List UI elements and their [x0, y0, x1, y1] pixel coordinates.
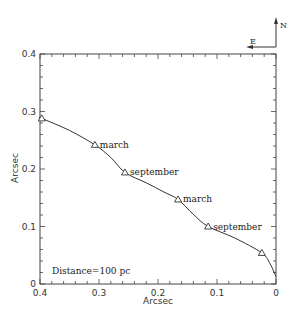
x-tick-label: 0.3: [92, 288, 106, 298]
compass: N E: [246, 17, 287, 49]
y-tick-label: 0.3: [22, 107, 36, 117]
point-label: march: [100, 140, 129, 150]
y-tick-label: 0: [30, 279, 36, 289]
x-tick-label: 0.1: [210, 288, 224, 298]
x-tick-label: 0.4: [33, 288, 48, 298]
compass-east-label: E: [250, 37, 256, 46]
annotations: Distance=100 pc: [52, 266, 130, 276]
y-tick-label: 0.4: [22, 49, 37, 59]
x-axis-label: Arcsec: [143, 296, 173, 306]
triangle-marker-icon: [91, 141, 98, 147]
trajectory-curve: [39, 117, 276, 276]
y-tick-label: 0.2: [22, 164, 36, 174]
distance-annotation: Distance=100 pc: [52, 266, 130, 276]
triangle-marker-icon: [205, 223, 212, 229]
triangle-marker-icon: [175, 196, 182, 202]
y-tick-label: 0.1: [22, 222, 36, 232]
chart: N E 0.40.30.20.1000.10.20.30.4 Arcsec Ar…: [0, 0, 296, 321]
x-tick-label: 0: [273, 288, 279, 298]
triangle-marker-icon: [258, 249, 265, 255]
point-label: september: [130, 167, 179, 177]
y-axis-label: Arcsec: [10, 153, 20, 183]
compass-north-label: N: [280, 21, 287, 30]
point-label: march: [183, 194, 212, 204]
point-label: september: [213, 222, 262, 232]
